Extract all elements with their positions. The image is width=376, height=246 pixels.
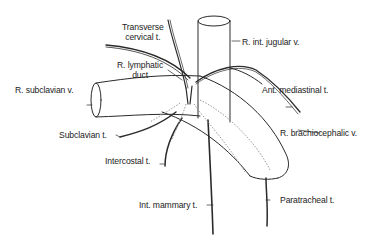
label-transverse-cervical: Transverse cervical t. (122, 22, 164, 42)
label-line: duct (117, 70, 163, 80)
label-intercostal: Intercostal t. (105, 156, 150, 166)
label-line: cervical t. (122, 32, 164, 42)
label-r-int-jugular: R. int. jugular v. (242, 37, 299, 47)
label-int-mammary: Int. mammary t. (139, 200, 197, 210)
label-line: Transverse (122, 22, 164, 32)
label-subclavian-trunk: Subclavian t. (59, 130, 107, 140)
label-r-subclavian: R. subclavian v. (15, 85, 73, 95)
internal-jugular-vein-shape (198, 16, 230, 122)
label-r-lymphatic-duct: R. lymphatic duct (117, 60, 163, 80)
label-line: R. lymphatic (117, 60, 163, 70)
label-ant-mediastinal: Ant. mediastinal t. (262, 85, 328, 95)
label-paratracheal: Paratracheal t. (280, 195, 334, 205)
diagram-canvas: Transverse cervical t. R. int. jugular v… (0, 0, 376, 246)
label-r-brachiocephalic: R. brachiocephalic v. (280, 128, 357, 138)
